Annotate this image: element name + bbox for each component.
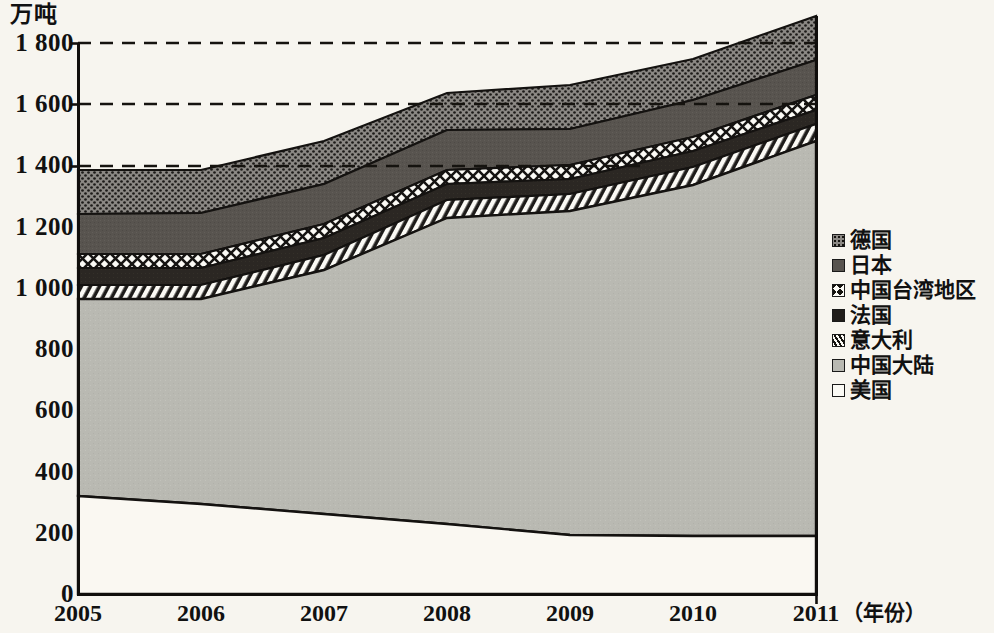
legend-label: 日本 xyxy=(850,254,892,277)
x-tick-2006: 2006 xyxy=(177,598,225,628)
x-tick-2007: 2007 xyxy=(300,598,348,628)
legend-label: 中国大陆 xyxy=(850,354,934,377)
legend-swatch-icon xyxy=(832,309,845,322)
legend-swatch-icon xyxy=(832,384,845,397)
legend-item-5[interactable]: 意大利 xyxy=(832,328,994,353)
x-tick-2005: 2005 xyxy=(54,598,102,628)
x-axis-unit-label: （年份） xyxy=(842,598,926,628)
plot-area xyxy=(0,0,840,633)
x-tick-2009: 2009 xyxy=(546,598,594,628)
chart-figure: 万吨 02004006008001 0001 2001 4001 6001 80… xyxy=(0,0,994,633)
legend-item-6[interactable]: 中国大陆 xyxy=(832,353,994,378)
chart-legend: 德国日本中国台湾地区法国意大利中国大陆美国 xyxy=(832,228,994,403)
legend-label: 意大利 xyxy=(850,329,913,352)
x-tick-2008: 2008 xyxy=(423,598,471,628)
legend-swatch-icon xyxy=(832,334,845,347)
legend-label: 德国 xyxy=(850,229,892,252)
legend-item-3[interactable]: 中国台湾地区 xyxy=(832,278,994,303)
legend-item-2[interactable]: 日本 xyxy=(832,253,994,278)
legend-swatch-icon xyxy=(832,359,845,372)
x-axis-tick-labels: 2005200620072008200920102011（年份） xyxy=(0,598,994,633)
legend-label: 法国 xyxy=(850,304,892,327)
legend-item-4[interactable]: 法国 xyxy=(832,303,994,328)
legend-label: 美国 xyxy=(850,379,892,402)
legend-swatch-icon xyxy=(832,284,845,297)
legend-label: 中国台湾地区 xyxy=(850,279,976,302)
legend-swatch-icon xyxy=(832,259,845,272)
legend-item-7[interactable]: 美国 xyxy=(832,378,994,403)
x-tick-2010: 2010 xyxy=(669,598,717,628)
x-tick-2011: 2011 xyxy=(793,598,840,628)
legend-item-1[interactable]: 德国 xyxy=(832,228,994,253)
legend-swatch-icon xyxy=(832,234,845,247)
